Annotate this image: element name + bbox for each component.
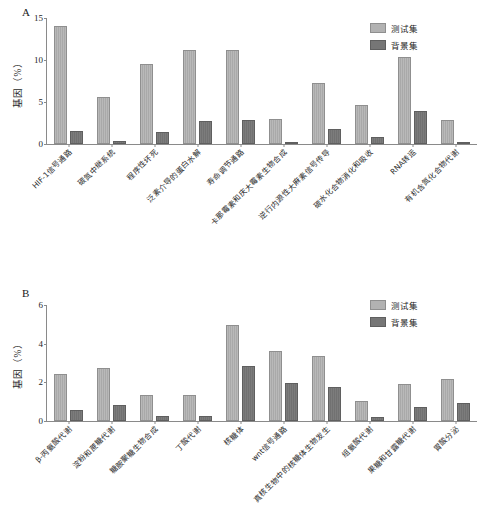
panel-a-bar-group: [133, 18, 176, 144]
panel-b-x-axis-label: 组氨酸代谢: [340, 425, 374, 459]
panel-b-bar-group: [90, 305, 133, 421]
panel-b-bar-test: [355, 401, 368, 421]
panel-a-bar-group: [262, 18, 305, 144]
panel-a-bar-group: [176, 18, 219, 144]
panel-b-bar-background: [371, 417, 384, 421]
panel-b-y-axis-title: 基因（%）: [10, 339, 24, 389]
panel-a-bar-background: [199, 121, 212, 144]
panel-b-x-label-cell: 果糖和甘露糖代谢: [390, 422, 433, 423]
panel-b-bar-background: [199, 416, 212, 421]
panel-b-bar-test: [398, 384, 411, 421]
panel-b-bar-background: [285, 383, 298, 421]
panel-a-x-axis-label: 寿命调节通路: [206, 148, 245, 187]
panel-a-x-label-cell: 程序性坏死: [132, 145, 175, 146]
panel-b-x-label-cell: 胃酸分泌: [433, 422, 476, 423]
panel-a-x-label-cell: 碳氮中继系统: [89, 145, 132, 146]
panel-b-x-label-cell: 核糖体: [218, 422, 261, 423]
panel-b-bar-test: [183, 395, 196, 421]
panel-a-bar-test: [312, 83, 325, 144]
panel-b-x-axis-label: 淀粉和蔗糖代谢: [71, 425, 116, 470]
panel-b-bar-background: [328, 387, 341, 421]
panel-a-x-label-cell: 逆行内源性大麻素信号传导: [304, 145, 347, 146]
panel-a-bar-background: [371, 137, 384, 144]
panel-b-bar-test: [441, 379, 454, 421]
legend-item-background: 背景集: [370, 39, 418, 51]
panel-b-y-tick-mark: [44, 305, 47, 306]
legend-label-test: 测试集: [391, 22, 418, 34]
panel-a-bar-test: [54, 26, 67, 144]
panel-b-letter: B: [22, 287, 30, 299]
panel-a-y-tick-label: 5: [39, 98, 44, 107]
panel-b-y-tick-mark: [44, 382, 47, 383]
panel-b-bar-group: [434, 305, 477, 421]
panel-a-bar-test: [398, 57, 411, 144]
panel-a-x-axis-label: 碳氮中继系统: [77, 148, 116, 187]
panel-a-x-label-cell: 卡那霉素和庆大霉素生物合成: [261, 145, 304, 146]
panel-b-bar-background: [414, 407, 427, 422]
panel-b-bar-test: [54, 374, 67, 421]
panel-b-x-axis-labels: β-丙氨酸代谢淀粉和蔗糖代谢糖胺聚糖生物合成丁酸代谢核糖体wnt信号通路真核生物…: [46, 422, 476, 423]
panel-a-bar-background: [156, 132, 169, 144]
panel-b-y-tick-label: 4: [39, 339, 44, 348]
panel-b-x-label-cell: 真核生物中的核糖体生物发生: [304, 422, 347, 423]
panel-b-bar-test: [140, 395, 153, 421]
panel-b-x-axis-label: 胃酸分泌: [432, 425, 460, 453]
panel-a-bar-test: [226, 50, 239, 144]
panel-b-x-axis-label: 丁酸代谢: [174, 425, 202, 453]
panel-a-y-axis-title: 基因（%）: [10, 58, 24, 108]
panel-b-bar-group: [176, 305, 219, 421]
panel-a-x-axis-label: HIF-1信号通路: [31, 148, 73, 190]
panel-a-bar-background: [457, 142, 470, 144]
panel-b-x-axis-label: 果糖和甘露糖代谢: [366, 425, 417, 476]
legend-item-background: 背景集: [370, 316, 418, 328]
legend-label-background: 背景集: [391, 316, 418, 328]
panel-b-x-label-cell: 淀粉和蔗糖代谢: [89, 422, 132, 423]
panel-b-bar-group: [47, 305, 90, 421]
panel-a-y-tick-mark: [44, 60, 47, 61]
panel-a-bar-background: [328, 129, 341, 144]
panel-a-x-label-cell: 碳水化合物消化和吸收: [347, 145, 390, 146]
panel-a-x-label-cell: RNA转运: [390, 145, 433, 146]
panel-b-x-label-cell: 丁酸代谢: [175, 422, 218, 423]
panel-b-bar-test: [312, 356, 325, 421]
legend-swatch-test-icon: [370, 300, 386, 310]
panel-b: B 基因（%） 0246 β-丙氨酸代谢淀粉和蔗糖代谢糖胺聚糖生物合成丁酸代谢核…: [0, 285, 490, 530]
panel-a-bar-test: [140, 64, 153, 144]
panel-a-x-axis-label: 卡那霉素和庆大霉素生物合成: [209, 148, 288, 227]
panel-a-y-tick-label: 0: [39, 140, 44, 149]
panel-a-x-label-cell: 寿命调节通路: [218, 145, 261, 146]
legend-label-test: 测试集: [391, 299, 418, 311]
panel-a-x-axis-labels: HIF-1信号通路碳氮中继系统程序性坏死泛素介导的蛋白水解寿命调节通路卡那霉素和…: [46, 145, 476, 146]
panel-b-bar-background: [113, 405, 126, 421]
legend-swatch-background-icon: [370, 40, 386, 50]
panel-a-x-label-cell: HIF-1信号通路: [46, 145, 89, 146]
legend-swatch-background-icon: [370, 317, 386, 327]
panel-b-x-axis-label: 核糖体: [223, 425, 245, 447]
panel-a: A 基因（%） 051015 HIF-1信号通路碳氮中继系统程序性坏死泛素介导的…: [0, 0, 490, 268]
panel-a-bar-group: [90, 18, 133, 144]
panel-a-bar-test: [441, 120, 454, 144]
panel-a-bar-group: [47, 18, 90, 144]
panel-a-bar-test: [97, 97, 110, 144]
panel-a-x-label-cell: 有机含氮化合物代谢: [433, 145, 476, 146]
panel-b-x-label-cell: 组氨酸代谢: [347, 422, 390, 423]
panel-b-bar-background: [156, 416, 169, 421]
legend-item-test: 测试集: [370, 22, 418, 34]
panel-a-x-axis-label: RNA转运: [389, 148, 417, 176]
panel-b-bar-background: [457, 403, 470, 421]
panel-b-bar-background: [242, 366, 255, 421]
panel-a-bar-background: [414, 111, 427, 144]
legend-label-background: 背景集: [391, 39, 418, 51]
panel-b-x-axis-label: 糖胺聚糖生物合成: [108, 425, 159, 476]
panel-b-bar-group: [305, 305, 348, 421]
panel-a-x-axis-label: 程序性坏死: [125, 148, 159, 182]
panel-b-y-tick-label: 2: [39, 378, 44, 387]
panel-a-bar-background: [242, 120, 255, 144]
legend-swatch-test-icon: [370, 23, 386, 33]
panel-a-bar-background: [70, 131, 83, 144]
panel-b-y-tick-label: 0: [39, 417, 44, 426]
legend-item-test: 测试集: [370, 299, 418, 311]
panel-b-y-tick-mark: [44, 344, 47, 345]
panel-a-bar-group: [305, 18, 348, 144]
panel-a-y-tick-label: 10: [34, 56, 43, 65]
